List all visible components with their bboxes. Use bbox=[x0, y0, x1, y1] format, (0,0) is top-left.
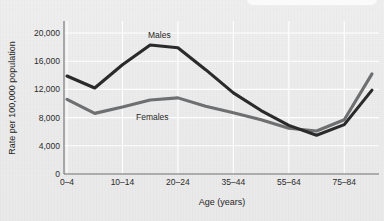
x-axis-tick-labels: 0–410–1420–2435–4455–6475–84 bbox=[60, 177, 356, 187]
series-line-males bbox=[67, 45, 372, 135]
vertical-gridlines bbox=[67, 21, 344, 174]
y-tick-label: 8,000 bbox=[39, 113, 61, 123]
x-axis-title: Age (years) bbox=[199, 197, 246, 207]
x-tick-label: 55–64 bbox=[277, 177, 301, 187]
series-label-males: Males bbox=[148, 30, 171, 40]
x-tick-label: 10–14 bbox=[111, 177, 135, 187]
y-tick-label: 12,000 bbox=[34, 84, 60, 94]
x-tick-label: 35–44 bbox=[222, 177, 246, 187]
y-axis-title: Rate per 100,000 population bbox=[7, 41, 17, 155]
y-tick-label: 20,000 bbox=[34, 28, 60, 38]
x-tick-label: 20–24 bbox=[166, 177, 190, 187]
x-tick-label: 0–4 bbox=[60, 177, 74, 187]
y-axis-tick-labels: 04,0008,00012,00016,00020,000 bbox=[34, 28, 60, 179]
y-tick-label: 4,000 bbox=[39, 141, 61, 151]
series-label-females: Females bbox=[136, 112, 169, 122]
line-chart: 04,0008,00012,00016,00020,000 0–410–1420… bbox=[0, 0, 384, 221]
y-tick-label: 16,000 bbox=[34, 56, 60, 66]
x-tick-label: 75–84 bbox=[332, 177, 356, 187]
chart-canvas: 04,0008,00012,00016,00020,000 0–410–1420… bbox=[0, 0, 384, 221]
